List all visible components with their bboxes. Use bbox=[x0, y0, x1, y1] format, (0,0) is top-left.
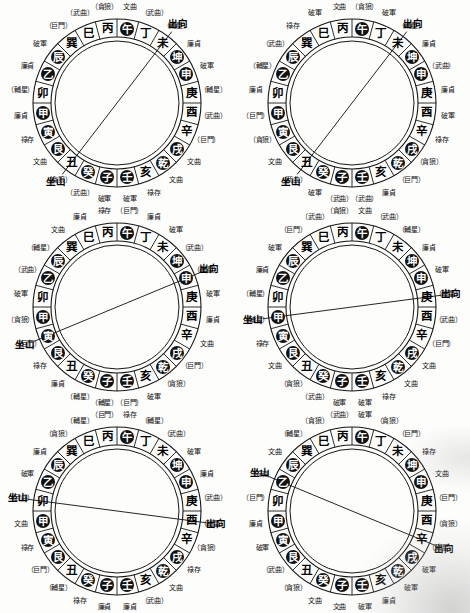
mountain-cell-丁[interactable]: 丁 bbox=[138, 26, 153, 41]
mountain-cell-酉[interactable]: 酉 bbox=[419, 105, 434, 120]
mountain-cell-巳[interactable]: 巳 bbox=[316, 230, 331, 245]
mountain-cell-戌[interactable]: 戌 bbox=[405, 550, 419, 564]
mountain-cell-庚[interactable]: 庚 bbox=[419, 494, 434, 509]
mountain-cell-巽[interactable]: 巽 bbox=[299, 444, 314, 459]
mountain-cell-壬[interactable]: 壬 bbox=[120, 170, 134, 184]
mountain-cell-丑[interactable]: 丑 bbox=[299, 155, 314, 170]
mountain-cell-丙[interactable]: 丙 bbox=[335, 21, 350, 36]
mountain-cell-坤[interactable]: 坤 bbox=[405, 50, 419, 64]
mountain-cell-乾[interactable]: 乾 bbox=[391, 156, 405, 170]
mountain-cell-未[interactable]: 未 bbox=[390, 240, 405, 255]
mountain-cell-酉[interactable]: 酉 bbox=[184, 105, 199, 120]
mountain-cell-辰[interactable]: 辰 bbox=[51, 254, 65, 268]
mountain-cell-戌[interactable]: 戌 bbox=[170, 550, 184, 564]
mountain-cell-寅[interactable]: 寅 bbox=[41, 329, 55, 343]
mountain-cell-巽[interactable]: 巽 bbox=[64, 444, 79, 459]
mountain-cell-辛[interactable]: 辛 bbox=[414, 532, 429, 547]
mountain-cell-卯[interactable]: 卯 bbox=[35, 290, 50, 305]
mountain-cell-午[interactable]: 午 bbox=[355, 226, 369, 240]
mountain-cell-丁[interactable]: 丁 bbox=[138, 434, 153, 449]
mountain-cell-艮[interactable]: 艮 bbox=[286, 346, 300, 360]
mountain-cell-未[interactable]: 未 bbox=[155, 240, 170, 255]
mountain-cell-寅[interactable]: 寅 bbox=[41, 533, 55, 547]
mountain-cell-乙[interactable]: 乙 bbox=[276, 271, 290, 285]
mountain-cell-乾[interactable]: 乾 bbox=[156, 564, 170, 578]
mountain-cell-乙[interactable]: 乙 bbox=[41, 67, 55, 81]
mountain-cell-坤[interactable]: 坤 bbox=[170, 254, 184, 268]
mountain-cell-甲[interactable]: 甲 bbox=[271, 310, 285, 324]
mountain-cell-辰[interactable]: 辰 bbox=[51, 50, 65, 64]
mountain-cell-巳[interactable]: 巳 bbox=[316, 434, 331, 449]
mountain-cell-丑[interactable]: 丑 bbox=[299, 563, 314, 578]
mountain-cell-辛[interactable]: 辛 bbox=[414, 328, 429, 343]
mountain-cell-庚[interactable]: 庚 bbox=[184, 86, 199, 101]
mountain-cell-坤[interactable]: 坤 bbox=[405, 254, 419, 268]
mountain-cell-辰[interactable]: 辰 bbox=[286, 458, 300, 472]
mountain-cell-辛[interactable]: 辛 bbox=[179, 328, 194, 343]
mountain-cell-戌[interactable]: 戌 bbox=[405, 142, 419, 156]
mountain-cell-庚[interactable]: 庚 bbox=[419, 86, 434, 101]
mountain-cell-乙[interactable]: 乙 bbox=[276, 475, 290, 489]
mountain-cell-丙[interactable]: 丙 bbox=[335, 429, 350, 444]
mountain-cell-酉[interactable]: 酉 bbox=[419, 513, 434, 528]
mountain-cell-艮[interactable]: 艮 bbox=[51, 142, 65, 156]
mountain-cell-午[interactable]: 午 bbox=[120, 226, 134, 240]
mountain-cell-戌[interactable]: 戌 bbox=[170, 346, 184, 360]
mountain-cell-甲[interactable]: 甲 bbox=[36, 310, 50, 324]
mountain-cell-壬[interactable]: 壬 bbox=[120, 374, 134, 388]
mountain-cell-亥[interactable]: 亥 bbox=[138, 573, 153, 588]
mountain-cell-巳[interactable]: 巳 bbox=[81, 230, 96, 245]
mountain-cell-艮[interactable]: 艮 bbox=[51, 550, 65, 564]
mountain-cell-甲[interactable]: 甲 bbox=[36, 106, 50, 120]
mountain-cell-艮[interactable]: 艮 bbox=[286, 142, 300, 156]
mountain-cell-戌[interactable]: 戌 bbox=[405, 346, 419, 360]
mountain-cell-巽[interactable]: 巽 bbox=[299, 240, 314, 255]
mountain-cell-丙[interactable]: 丙 bbox=[100, 21, 115, 36]
mountain-cell-壬[interactable]: 壬 bbox=[120, 578, 134, 592]
mountain-cell-壬[interactable]: 壬 bbox=[355, 170, 369, 184]
mountain-cell-丁[interactable]: 丁 bbox=[373, 26, 388, 41]
mountain-cell-坤[interactable]: 坤 bbox=[170, 50, 184, 64]
mountain-cell-坤[interactable]: 坤 bbox=[170, 458, 184, 472]
mountain-cell-巽[interactable]: 巽 bbox=[299, 36, 314, 51]
mountain-cell-丁[interactable]: 丁 bbox=[373, 434, 388, 449]
mountain-cell-乙[interactable]: 乙 bbox=[276, 67, 290, 81]
mountain-cell-戌[interactable]: 戌 bbox=[170, 142, 184, 156]
mountain-cell-卯[interactable]: 卯 bbox=[270, 290, 285, 305]
mountain-cell-亥[interactable]: 亥 bbox=[138, 369, 153, 384]
mountain-cell-丑[interactable]: 丑 bbox=[64, 359, 79, 374]
mountain-cell-寅[interactable]: 寅 bbox=[276, 533, 290, 547]
mountain-cell-亥[interactable]: 亥 bbox=[373, 573, 388, 588]
mountain-cell-甲[interactable]: 甲 bbox=[271, 514, 285, 528]
mountain-cell-辛[interactable]: 辛 bbox=[414, 124, 429, 139]
mountain-cell-乾[interactable]: 乾 bbox=[391, 360, 405, 374]
mountain-cell-丑[interactable]: 丑 bbox=[299, 359, 314, 374]
mountain-cell-午[interactable]: 午 bbox=[120, 430, 134, 444]
mountain-cell-巳[interactable]: 巳 bbox=[81, 26, 96, 41]
mountain-cell-丙[interactable]: 丙 bbox=[335, 225, 350, 240]
mountain-cell-酉[interactable]: 酉 bbox=[184, 513, 199, 528]
mountain-cell-丁[interactable]: 丁 bbox=[138, 230, 153, 245]
mountain-cell-卯[interactable]: 卯 bbox=[270, 86, 285, 101]
mountain-cell-辰[interactable]: 辰 bbox=[51, 458, 65, 472]
mountain-cell-午[interactable]: 午 bbox=[120, 22, 134, 36]
mountain-cell-午[interactable]: 午 bbox=[355, 22, 369, 36]
mountain-cell-壬[interactable]: 壬 bbox=[355, 578, 369, 592]
mountain-cell-亥[interactable]: 亥 bbox=[138, 165, 153, 180]
mountain-cell-辰[interactable]: 辰 bbox=[286, 50, 300, 64]
mountain-cell-未[interactable]: 未 bbox=[390, 36, 405, 51]
mountain-cell-艮[interactable]: 艮 bbox=[286, 550, 300, 564]
mountain-cell-辛[interactable]: 辛 bbox=[179, 532, 194, 547]
mountain-cell-坤[interactable]: 坤 bbox=[405, 458, 419, 472]
mountain-cell-卯[interactable]: 卯 bbox=[270, 494, 285, 509]
mountain-cell-巳[interactable]: 巳 bbox=[81, 434, 96, 449]
mountain-cell-亥[interactable]: 亥 bbox=[373, 165, 388, 180]
mountain-cell-乾[interactable]: 乾 bbox=[391, 564, 405, 578]
mountain-cell-庚[interactable]: 庚 bbox=[184, 494, 199, 509]
mountain-cell-巽[interactable]: 巽 bbox=[64, 36, 79, 51]
mountain-cell-乙[interactable]: 乙 bbox=[41, 475, 55, 489]
mountain-cell-甲[interactable]: 甲 bbox=[271, 106, 285, 120]
mountain-cell-庚[interactable]: 庚 bbox=[184, 290, 199, 305]
mountain-cell-辰[interactable]: 辰 bbox=[286, 254, 300, 268]
mountain-cell-寅[interactable]: 寅 bbox=[276, 125, 290, 139]
